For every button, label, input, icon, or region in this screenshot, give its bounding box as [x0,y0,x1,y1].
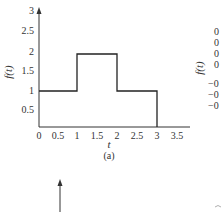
y-tick: 2.5 [22,25,35,36]
x-tick: 2.5 [131,130,144,141]
y-tick-b: −0 [208,100,219,111]
x-tick: 3 [155,130,160,141]
x-tick: 0.5 [52,130,65,141]
panel-c-partial [58,179,222,212]
y-tick: 2 [29,46,34,57]
x-axis-label: t [107,138,111,150]
y-tick: 0.5 [22,104,35,115]
x-tick: 0 [37,130,42,141]
x-tick: 2 [115,130,120,141]
y-tick-b: 0 [214,48,219,59]
y-tick-b: −0 [208,78,219,89]
panel-b: f(t) 0 0 0 0 −0 −0 −0 [193,26,219,111]
x-tick: 1.5 [91,130,104,141]
panel-a: 3 2.5 2 1.5 1 0.5 f(t) 0 0.5 1 1.5 2 2.5… [2,5,190,162]
x-tick: 1 [75,130,80,141]
y-tick: 1.5 [22,65,35,76]
y-tick-b: 0 [214,26,219,37]
y-axis-arrow-icon [37,7,42,14]
partial-mark-icon [215,206,221,208]
y-tick-b: 0 [214,37,219,48]
panel-caption: (a) [103,150,114,162]
y-tick: 1 [29,85,34,96]
x-tick: 3.5 [171,130,184,141]
y-axis-label: f(t) [2,65,15,79]
y-axis-c-arrow-icon [58,179,63,186]
y-tick-b: −0 [208,89,219,100]
figure: 3 2.5 2 1.5 1 0.5 f(t) 0 0.5 1 1.5 2 2.5… [0,0,222,212]
y-tick-b: 0 [214,59,219,70]
y-axis-label-b: f(t) [193,61,206,75]
step-function-line [39,54,157,127]
y-tick: 3 [29,5,34,16]
